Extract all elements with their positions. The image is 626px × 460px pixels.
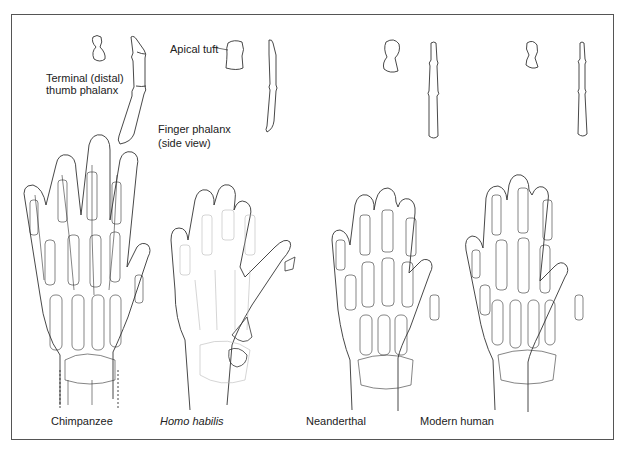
chimpanzee-hand bbox=[24, 135, 150, 410]
chimp-thumb-phalanx bbox=[92, 36, 105, 62]
neanderthal-thumb-phalanx bbox=[383, 40, 399, 72]
habilis-apical-tuft bbox=[226, 41, 244, 70]
apical-tuft-label: Apical tuft bbox=[170, 42, 218, 56]
hand-bone-illustration bbox=[0, 0, 626, 460]
homo-habilis-hand bbox=[171, 185, 295, 410]
modern-human-hand bbox=[466, 175, 583, 412]
neanderthal-finger-phalanx bbox=[428, 42, 439, 138]
finger-phalanx-label-1: Finger phalanx bbox=[158, 122, 231, 136]
species-label-chimpanzee: Chimpanzee bbox=[51, 414, 113, 428]
neanderthal-hand bbox=[332, 188, 439, 411]
finger-phalanx-label-2: (side view) bbox=[158, 136, 211, 150]
terminal-phalanx-label-2: thumb phalanx bbox=[46, 83, 118, 97]
modern-human-thumb-phalanx bbox=[526, 41, 538, 68]
species-label-homo-habilis: Homo habilis bbox=[160, 414, 224, 428]
habilis-finger-phalanx bbox=[266, 40, 277, 132]
species-label-modern-human: Modern human bbox=[420, 414, 494, 428]
species-label-neanderthal: Neanderthal bbox=[306, 414, 366, 428]
chimp-finger-phalanx-side bbox=[118, 36, 146, 144]
modern-human-finger-phalanx bbox=[578, 42, 587, 136]
